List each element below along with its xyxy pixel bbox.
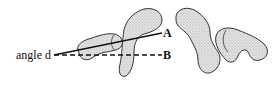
diagram-canvas: angle d A B bbox=[0, 0, 272, 85]
blob-3 bbox=[176, 8, 220, 73]
blob-2 bbox=[119, 9, 162, 77]
blob-1 bbox=[78, 34, 123, 60]
line-b-label: B bbox=[163, 48, 171, 62]
angle-label: angle d bbox=[16, 48, 51, 62]
line-a-label: A bbox=[163, 26, 172, 40]
blob-4 bbox=[216, 28, 268, 62]
